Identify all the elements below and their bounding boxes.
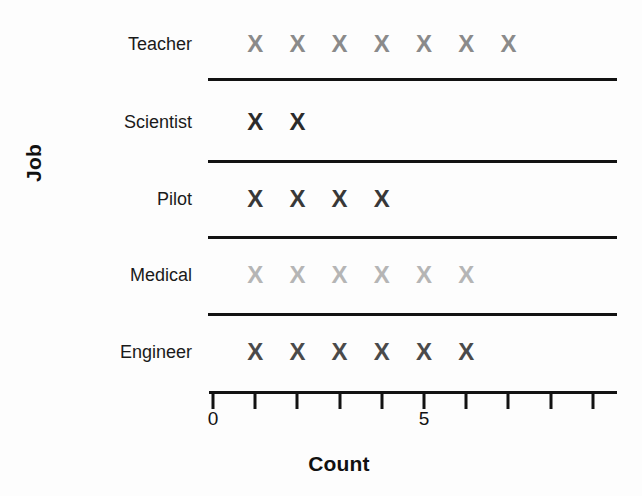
- x-marker: X: [289, 187, 305, 211]
- x-marker: X: [458, 340, 474, 364]
- y-axis-tick-label-scientist: Scientist: [124, 113, 192, 131]
- x-axis-line: [209, 391, 617, 394]
- x-axis-tick-0: [212, 394, 215, 409]
- y-axis-tick-label-engineer: Engineer: [120, 343, 192, 361]
- y-axis-tick-label-teacher: Teacher: [128, 35, 192, 53]
- category-separator-2: [208, 160, 617, 163]
- x-axis-tick-7: [507, 394, 510, 409]
- x-marker: X: [416, 263, 432, 287]
- dot-plot-chart: Job Count TeacherScientistPilotMedicalEn…: [0, 0, 642, 496]
- y-axis-tick-label-pilot: Pilot: [157, 190, 192, 208]
- x-axis-tick-4: [380, 394, 383, 409]
- x-marker: X: [458, 32, 474, 56]
- x-marker: X: [247, 340, 263, 364]
- x-marker: X: [247, 32, 263, 56]
- x-marker: X: [374, 263, 390, 287]
- x-marker: X: [247, 187, 263, 211]
- x-axis-title: Count: [0, 452, 642, 476]
- x-marker: X: [332, 32, 348, 56]
- x-marker: X: [332, 187, 348, 211]
- x-marker: X: [332, 340, 348, 364]
- x-marker: X: [289, 340, 305, 364]
- x-marker: X: [289, 110, 305, 134]
- x-marker: X: [332, 263, 348, 287]
- x-axis-tick-3: [338, 394, 341, 409]
- x-axis-tick-8: [549, 394, 552, 409]
- x-axis-tick-label-0: 0: [208, 409, 219, 428]
- x-marker: X: [416, 32, 432, 56]
- x-axis-tick-2: [296, 394, 299, 409]
- x-marker: X: [500, 32, 516, 56]
- x-marker: X: [247, 263, 263, 287]
- y-axis-tick-label-medical: Medical: [130, 266, 192, 284]
- x-marker: X: [374, 340, 390, 364]
- x-marker: X: [374, 187, 390, 211]
- category-separator-1: [208, 78, 617, 81]
- x-axis-tick-1: [254, 394, 257, 409]
- x-marker: X: [374, 32, 390, 56]
- y-axis-title: Job: [22, 144, 46, 182]
- x-axis-tick-6: [465, 394, 468, 409]
- x-axis-tick-label-5: 5: [419, 409, 430, 428]
- category-separator-3: [208, 236, 617, 239]
- x-marker: X: [289, 32, 305, 56]
- category-separator-4: [208, 313, 617, 316]
- x-axis-tick-9: [591, 394, 594, 409]
- x-marker: X: [458, 263, 474, 287]
- x-marker: X: [289, 263, 305, 287]
- x-marker: X: [416, 340, 432, 364]
- x-marker: X: [247, 110, 263, 134]
- x-axis-tick-5: [423, 394, 426, 409]
